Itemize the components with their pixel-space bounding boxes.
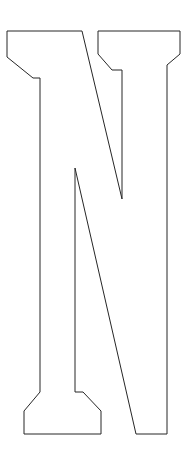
canvas-root: Letter N Outline N Uppercase serif lette…: [0, 0, 186, 452]
letter-n-outline-svg: [0, 0, 186, 452]
